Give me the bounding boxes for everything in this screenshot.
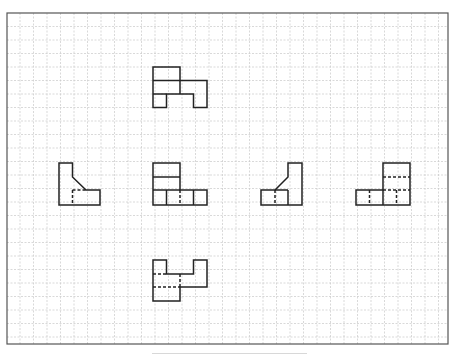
bottom-scroll-indicator — [152, 353, 307, 354]
visible-edge — [59, 163, 100, 205]
right-view — [261, 163, 302, 205]
visible-edge — [261, 163, 302, 205]
left-view — [59, 163, 100, 205]
front-view — [153, 163, 207, 205]
top-view — [153, 67, 207, 108]
visible-edge — [153, 163, 207, 205]
bottom-view — [153, 260, 207, 301]
drawing-canvas — [0, 0, 455, 356]
rear-view — [356, 163, 410, 205]
